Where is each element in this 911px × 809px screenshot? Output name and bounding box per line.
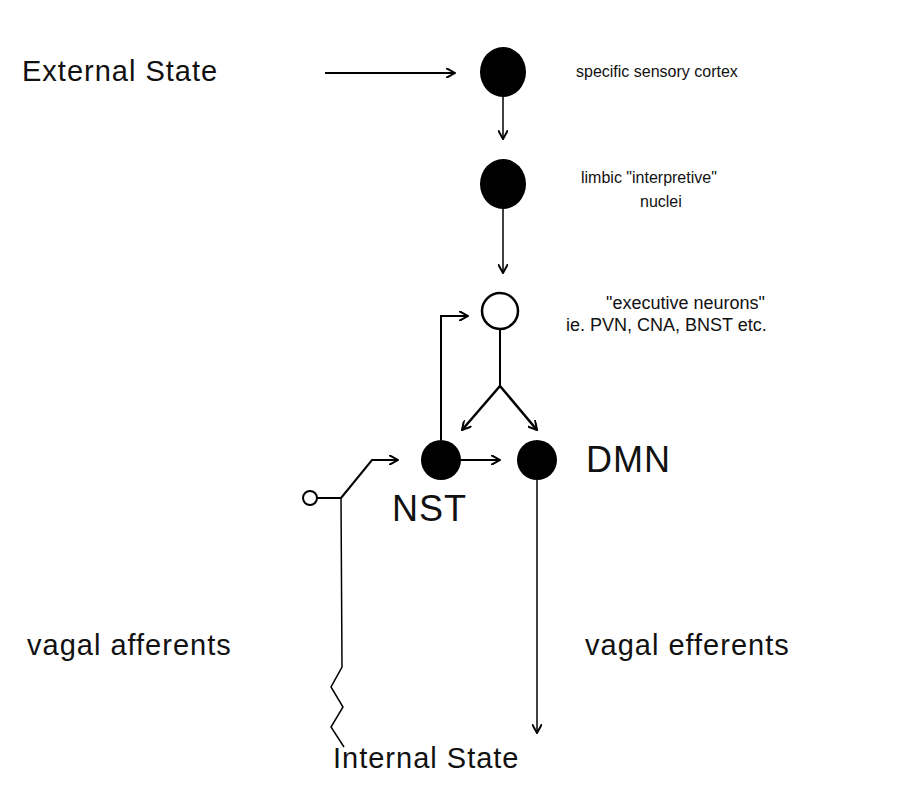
nst-feedback-arrow	[441, 316, 468, 440]
nst-node	[421, 440, 461, 480]
afferent-terminal-icon	[303, 491, 317, 505]
executive-label-line2: ie. PVN, CNA, BNST etc.	[566, 315, 767, 336]
executive-label-line1: "executive neurons"	[606, 293, 765, 314]
vagal-afferent-fiber	[331, 498, 344, 747]
dmn-node	[517, 440, 557, 480]
internal-state-label: Internal State	[333, 742, 520, 775]
sensory-cortex-label: specific sensory cortex	[576, 63, 738, 81]
afferent-to-nst-arrow	[341, 460, 398, 498]
diagram-canvas	[0, 0, 911, 809]
vagal-efferents-label: vagal efferents	[585, 629, 790, 662]
limbic-nuclei-node	[480, 159, 526, 209]
dmn-label: DMN	[586, 439, 671, 481]
executive-to-dmn-arrow	[500, 386, 537, 430]
nst-label: NST	[392, 488, 467, 530]
external-state-label: External State	[22, 55, 218, 88]
sensory-cortex-node	[480, 47, 526, 97]
executive-neuron-node	[482, 293, 518, 329]
vagal-afferents-label: vagal afferents	[27, 629, 232, 662]
limbic-label-line2: nuclei	[640, 193, 682, 211]
limbic-label-line1: limbic "interpretive"	[581, 169, 717, 187]
executive-to-nst-arrow	[462, 386, 500, 430]
